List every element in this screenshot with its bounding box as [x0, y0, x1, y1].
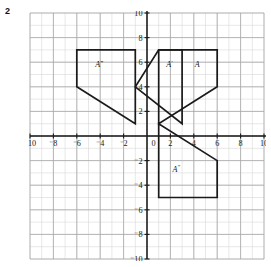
coordinate-graph: ⁻10⁻8⁻6⁻4⁻20246810108642⁻2⁻4⁻6⁻8⁻10 AA′A…: [28, 11, 266, 261]
x-tick-label: 4: [192, 139, 196, 148]
graph-svg: ⁻10⁻8⁻6⁻4⁻20246810108642⁻2⁻4⁻6⁻8⁻10 AA′A…: [28, 11, 266, 261]
shape-a-label: A: [194, 60, 200, 69]
x-tick-label: 2: [168, 139, 172, 148]
shape-a-triple-prime-label-prime: ‴: [100, 60, 103, 66]
x-tick-label: ⁻8: [49, 139, 57, 148]
y-tick-label: 10: [134, 11, 142, 18]
shape-a-double-prime-label: A″: [172, 164, 181, 173]
y-tick-label: ⁻6: [134, 206, 142, 215]
x-tick-label: ⁻2: [120, 139, 128, 148]
shape-a-double-prime-label-prime: ″: [177, 164, 180, 170]
x-tick-label: ⁻6: [73, 139, 81, 148]
y-tick-label: 2: [138, 107, 142, 116]
y-tick-label: 8: [138, 34, 142, 43]
y-tick-label: 4: [138, 83, 142, 92]
shape-a-triple-prime-label: A‴: [94, 60, 103, 69]
y-tick-label: ⁻4: [134, 181, 142, 190]
y-tick-label: 6: [138, 58, 142, 67]
x-tick-label: 8: [239, 139, 243, 148]
x-tick-label: ⁻4: [96, 139, 104, 148]
y-tick-label: ⁻2: [134, 157, 142, 166]
worksheet-page: 2 ⁻10⁻8⁻6⁻4⁻20246810108642⁻2⁻4⁻6⁻8⁻10 AA…: [0, 0, 271, 267]
x-tick-label: 6: [215, 139, 219, 148]
x-tick-label: ⁻10: [28, 139, 36, 148]
shape-a-prime-label-prime: ′: [171, 60, 173, 66]
x-tick-label: 10: [260, 139, 266, 148]
question-number: 2: [5, 7, 10, 16]
y-tick-label: ⁻8: [134, 230, 142, 239]
y-tick-label: ⁻10: [130, 255, 142, 261]
shape-a-prime-label: A′: [165, 60, 173, 69]
x-tick-label: 0: [152, 139, 156, 148]
